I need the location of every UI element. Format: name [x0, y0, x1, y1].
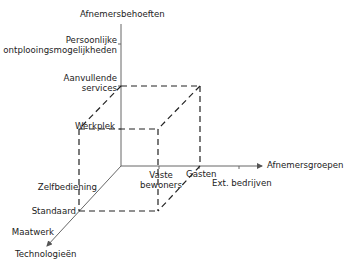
- tick-label-line: Persoonlijke: [0, 35, 117, 45]
- tick-label-line: Vaste: [139, 170, 183, 180]
- tick-standaard: Standaard: [6, 206, 76, 216]
- tick-aanvullende-services: Aanvullende services: [37, 73, 117, 93]
- tick-label-line: Aanvullende: [37, 73, 117, 83]
- vertical-axis-title: Afnemersbehoeften: [80, 9, 165, 19]
- tick-vaste-bewoners: Vaste bewoners: [139, 170, 183, 190]
- tick-label-line: services: [37, 83, 117, 93]
- tick-persoonlijke: Persoonlijke ontplooingsmogelijkheden: [0, 35, 117, 55]
- tick-maatwerk: Maatwerk: [0, 227, 54, 237]
- tick-label-line: ontplooingsmogelijkheden: [0, 45, 117, 55]
- tick-werkplek: Werkplek: [55, 121, 115, 131]
- diagonal-axis-title: Technologieën: [15, 249, 76, 259]
- horizontal-axis-title: Afnemersgroepen: [267, 160, 344, 170]
- tick-ext-bedrijven: Ext. bedrijven: [212, 178, 272, 188]
- tick-label-line: bewoners: [139, 180, 183, 190]
- tick-zelfbediening: Zelfbediening: [17, 182, 97, 192]
